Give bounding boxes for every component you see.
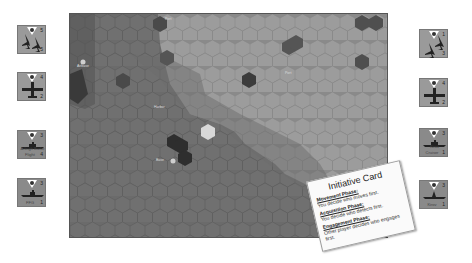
counter-bottom-value: 2 — [442, 99, 445, 105]
counter-top-value: 3 — [40, 180, 43, 186]
counter-bottom-value: 1 — [442, 201, 445, 207]
right-counter-fighters[interactable]: 1 3 — [419, 29, 448, 58]
left-counter-attack-aircraft[interactable]: 4 2 — [17, 72, 46, 101]
left-counter-ship-1[interactable]: 3 Arleigh Burke Flight 4 — [17, 130, 46, 159]
counter-top-value: 1 — [442, 31, 445, 37]
counter-top-value: 3 — [442, 182, 445, 188]
map-label: Port — [165, 17, 171, 21]
map-label: Base — [156, 158, 164, 162]
right-counter-attack-aircraft[interactable]: 4 2 — [419, 78, 448, 107]
ship-class: Kirov — [422, 202, 442, 207]
counter-top-value: 5 — [40, 27, 43, 33]
right-counter-ship-1[interactable]: 3 Kirov Cruiser 1 — [419, 128, 448, 157]
counter-top-value: 4 — [40, 74, 43, 80]
ship-class: FFG — [20, 200, 40, 205]
right-counter-ship-2[interactable]: 3 Kirov 1 — [419, 180, 448, 209]
map-label: Harbor — [154, 105, 165, 109]
counter-top-value: 3 — [40, 132, 43, 138]
counter-bottom-value: 5 — [40, 46, 43, 52]
map-label: Port — [285, 71, 291, 75]
map-label: Airbase — [77, 64, 89, 68]
left-counter-ship-2[interactable]: 3 FFG 1 — [17, 178, 46, 207]
counter-top-value: 4 — [442, 80, 445, 86]
ship-class: Cruiser — [422, 150, 442, 155]
counter-bottom-value: 3 — [442, 50, 445, 56]
counter-bottom-value: 4 — [40, 151, 43, 157]
counter-bottom-value: 1 — [40, 199, 43, 205]
ship-class: Flight — [20, 152, 40, 157]
counter-top-value: 3 — [442, 130, 445, 136]
counter-bottom-value: 2 — [40, 93, 43, 99]
left-counter-fighters[interactable]: 5 5 — [17, 25, 46, 54]
base-marker-icon — [171, 159, 176, 164]
counter-bottom-value: 1 — [442, 149, 445, 155]
